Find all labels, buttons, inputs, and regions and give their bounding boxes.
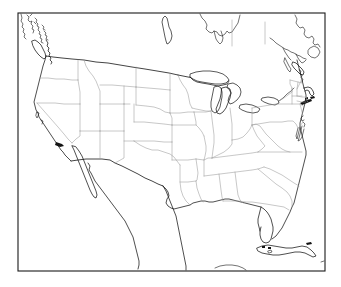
- map-background: [0, 0, 341, 287]
- map-figure: [0, 0, 341, 287]
- map-canvas: [0, 0, 341, 287]
